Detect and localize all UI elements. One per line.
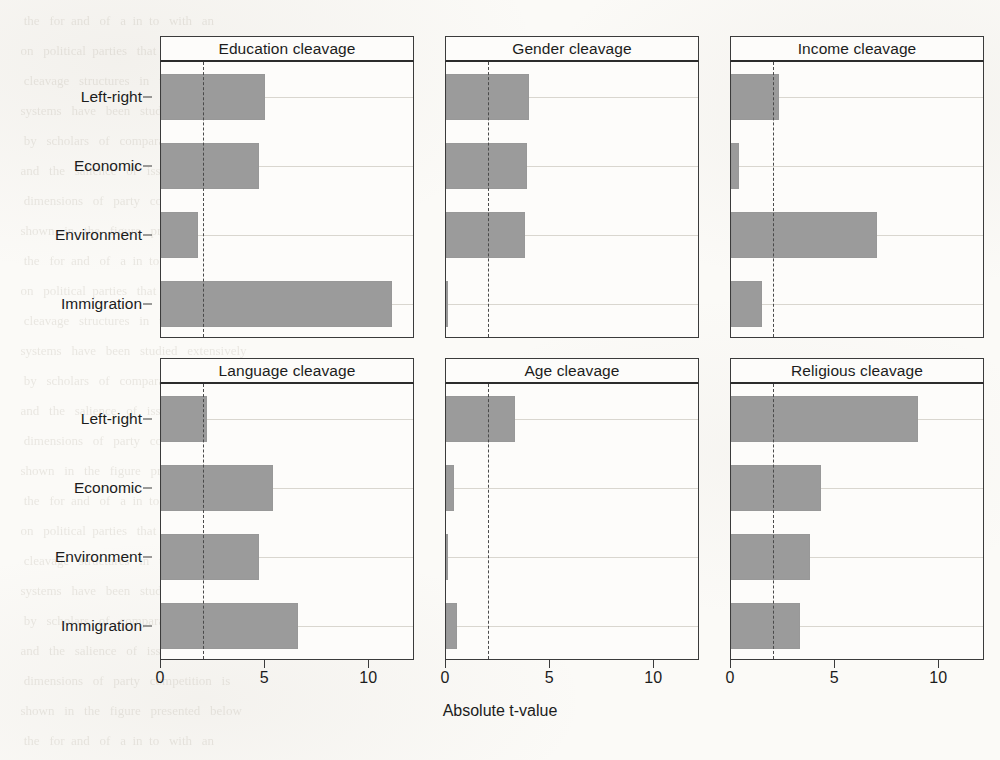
x-axis-title: Absolute t-value <box>0 702 1000 720</box>
y-axis-tick <box>143 96 152 97</box>
bar-left-right <box>446 396 515 442</box>
y-axis-tick <box>143 625 152 626</box>
x-axis-tick-label: 10 <box>644 669 662 687</box>
bar-immigration <box>446 281 448 327</box>
bar-environment <box>731 534 810 580</box>
y-axis-label-environment: Environment <box>55 548 142 566</box>
x-axis-tick <box>160 660 161 668</box>
significance-threshold-line <box>203 62 204 337</box>
bar-environment <box>161 534 259 580</box>
x-axis-tick-label: 5 <box>830 669 839 687</box>
panel-title-strip: Language cleavage <box>160 358 414 384</box>
plot-area <box>445 384 699 660</box>
panel-title: Income cleavage <box>798 40 917 58</box>
x-axis-tick <box>834 660 835 668</box>
panel-age-cleavage: Age cleavage <box>445 358 699 660</box>
y-axis-labels-row-2: Left-rightEconomicEnvironmentImmigration <box>0 384 152 660</box>
x-axis-tick-label: 5 <box>260 669 269 687</box>
bar-economic <box>446 465 454 511</box>
bar-immigration <box>161 281 392 327</box>
panel-religious-cleavage: Religious cleavage <box>730 358 984 660</box>
x-axis-tick-label: 5 <box>545 669 554 687</box>
significance-threshold-line <box>203 384 204 659</box>
x-axis-tick <box>549 660 550 668</box>
panel-title: Age cleavage <box>524 362 619 380</box>
panel-title: Language cleavage <box>218 362 355 380</box>
y-axis-label-economic: Economic <box>74 479 142 497</box>
plot-area <box>160 62 414 338</box>
panel-title-strip: Age cleavage <box>445 358 699 384</box>
y-axis-tick <box>143 487 152 488</box>
y-axis-label-economic: Economic <box>74 157 142 175</box>
x-axis-tick <box>730 660 731 668</box>
panel-title-strip: Religious cleavage <box>730 358 984 384</box>
bar-immigration <box>161 603 298 649</box>
bar-economic <box>731 465 821 511</box>
y-axis-label-immigration: Immigration <box>61 617 142 635</box>
y-axis-tick <box>143 556 152 557</box>
gridline <box>161 235 413 236</box>
panel-title-strip: Gender cleavage <box>445 36 699 62</box>
panel-title: Education cleavage <box>218 40 355 58</box>
significance-threshold-line <box>488 384 489 659</box>
gridline <box>446 557 698 558</box>
x-axis-tick <box>938 660 939 668</box>
plot-area <box>730 384 984 660</box>
gridline <box>446 304 698 305</box>
y-axis-tick <box>143 418 152 419</box>
y-axis-tick <box>143 303 152 304</box>
bar-environment <box>446 212 525 258</box>
significance-threshold-line <box>488 62 489 337</box>
y-axis-label-left-right: Left-right <box>81 410 142 428</box>
y-axis-label-left-right: Left-right <box>81 88 142 106</box>
bar-environment <box>446 534 448 580</box>
y-axis-tick <box>143 234 152 235</box>
bar-immigration <box>446 603 457 649</box>
x-axis-tick <box>368 660 369 668</box>
y-axis-labels-row-1: Left-rightEconomicEnvironmentImmigration <box>0 62 152 338</box>
panel-title-strip: Income cleavage <box>730 36 984 62</box>
significance-threshold-line <box>773 62 774 337</box>
x-axis-tick <box>264 660 265 668</box>
bar-economic <box>161 465 273 511</box>
bar-economic <box>731 143 739 189</box>
gridline <box>446 626 698 627</box>
panel-language-cleavage: Language cleavage <box>160 358 414 660</box>
bar-environment <box>731 212 877 258</box>
gridline <box>446 488 698 489</box>
plot-area <box>730 62 984 338</box>
x-axis-3: 0510 <box>730 660 984 694</box>
bar-left-right <box>731 396 918 442</box>
x-axis-1: 0510 <box>160 660 414 694</box>
panel-grid: Education cleavageGender cleavageIncome … <box>160 36 986 660</box>
significance-threshold-line <box>773 384 774 659</box>
y-axis-tick <box>143 165 152 166</box>
panel-income-cleavage: Income cleavage <box>730 36 984 338</box>
bar-left-right <box>161 74 265 120</box>
bar-environment <box>161 212 198 258</box>
bar-immigration <box>731 603 800 649</box>
x-axis-tick <box>445 660 446 668</box>
x-axis-tick-label: 0 <box>156 669 165 687</box>
gridline <box>731 304 983 305</box>
x-axis-tick-label: 0 <box>726 669 735 687</box>
x-axis-tick <box>653 660 654 668</box>
bar-economic <box>161 143 259 189</box>
plot-area <box>160 384 414 660</box>
bar-economic <box>446 143 527 189</box>
panel-title: Gender cleavage <box>512 40 632 58</box>
panel-title: Religious cleavage <box>791 362 923 380</box>
y-axis-label-environment: Environment <box>55 226 142 244</box>
panel-gender-cleavage: Gender cleavage <box>445 36 699 338</box>
plot-area <box>445 62 699 338</box>
x-axis-tick-label: 0 <box>441 669 450 687</box>
small-multiples-bar-chart: Education cleavageGender cleavageIncome … <box>0 0 1000 760</box>
gridline <box>731 166 983 167</box>
x-axis-tick-label: 10 <box>929 669 947 687</box>
x-axis-2: 0510 <box>445 660 699 694</box>
x-axis-tick-label: 10 <box>359 669 377 687</box>
panel-education-cleavage: Education cleavage <box>160 36 414 338</box>
panel-title-strip: Education cleavage <box>160 36 414 62</box>
bar-left-right <box>161 396 207 442</box>
y-axis-label-immigration: Immigration <box>61 295 142 313</box>
